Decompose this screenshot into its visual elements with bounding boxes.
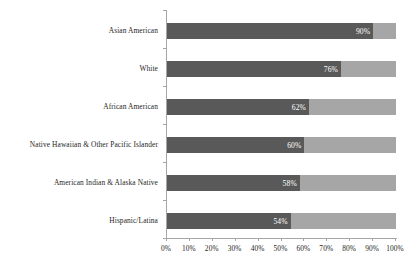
x-axis-tick-label: 60%: [296, 244, 310, 253]
bar-row: 62%: [167, 99, 396, 115]
bar-row: 90%: [167, 23, 396, 39]
bar-row: 60%: [167, 137, 396, 153]
category-label-native-hawaiian-other-pacific-islander: Native Hawaiian & Other Pacific Islander: [0, 140, 158, 150]
x-axis-tick-label: 70%: [319, 244, 333, 253]
bar-filled-segment: [167, 23, 373, 39]
x-axis-tick: [349, 238, 350, 241]
x-axis-tick-label: 50%: [274, 244, 288, 253]
x-axis-tick: [372, 238, 373, 241]
x-axis-tick: [281, 238, 282, 241]
x-axis-tick: [235, 238, 236, 241]
bar-filled-segment: [167, 175, 300, 191]
x-axis-tick-label: 100%: [386, 244, 404, 253]
x-axis-tick: [395, 238, 396, 241]
x-axis-tick-label: 30%: [228, 244, 242, 253]
x-axis-tick: [258, 238, 259, 241]
x-axis-tick: [189, 238, 190, 241]
category-label-african-american: African American: [0, 102, 158, 112]
y-axis-tick: [163, 86, 166, 87]
category-label-white: White: [0, 64, 158, 74]
bar-value-label: 90%: [356, 27, 370, 36]
x-axis-tick: [303, 238, 304, 241]
x-axis-tick-label: 40%: [251, 244, 265, 253]
x-axis-tick-label: 0%: [161, 244, 171, 253]
category-label-american-indian-alaska-native: American Indian & Alaska Native: [0, 178, 158, 188]
bar-row: 76%: [167, 61, 396, 77]
bar-filled-segment: [167, 213, 291, 229]
y-axis-tick: [163, 200, 166, 201]
y-axis-tick: [163, 48, 166, 49]
x-axis-tick: [166, 238, 167, 241]
bar-filled-segment: [167, 137, 304, 153]
bar-value-label: 62%: [292, 103, 306, 112]
x-axis-tick: [326, 238, 327, 241]
y-axis-tick: [163, 162, 166, 163]
x-axis-tick-label: 10%: [182, 244, 196, 253]
category-label-hispanic-latina: Hispanic/Latina: [0, 216, 158, 226]
plot-area: 90% 76% 62% 60% 58% 54%: [166, 10, 396, 238]
y-axis-tick: [163, 124, 166, 125]
bar-value-label: 58%: [283, 179, 297, 188]
bar-filled-segment: [167, 61, 341, 77]
x-axis-tick: [212, 238, 213, 241]
bar-row: 54%: [167, 213, 396, 229]
y-axis-tick: [163, 10, 166, 11]
bar-value-label: 76%: [324, 65, 338, 74]
bar-value-label: 60%: [287, 141, 301, 150]
category-label-asian-american: Asian American: [0, 26, 158, 36]
x-axis-tick-label: 90%: [365, 244, 379, 253]
x-axis-line: [166, 238, 397, 239]
x-axis-tick-label: 20%: [205, 244, 219, 253]
bar-chart: Asian American White African American Na…: [0, 0, 411, 268]
bar-value-label: 54%: [273, 217, 287, 226]
x-axis-tick-label: 80%: [342, 244, 356, 253]
bar-row: 58%: [167, 175, 396, 191]
category-axis-labels: Asian American White African American Na…: [0, 0, 162, 238]
y-axis-line: [166, 10, 167, 238]
bar-filled-segment: [167, 99, 309, 115]
